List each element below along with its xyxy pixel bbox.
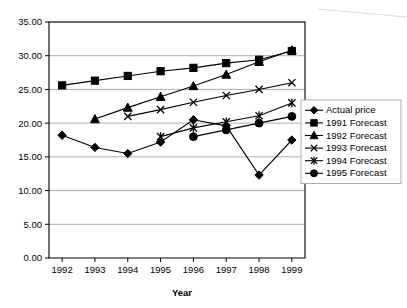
marker-square: [157, 68, 164, 75]
legend-label: 1992 Forecast: [326, 130, 387, 141]
y-axis-ticks: [45, 22, 49, 258]
marker-square: [223, 60, 230, 67]
marker-diamond: [124, 149, 132, 157]
marker-square: [124, 72, 131, 79]
scan-artifact: [318, 9, 407, 17]
x-tick-label: 1998: [248, 264, 269, 275]
data-series-group: [58, 46, 296, 180]
marker-asterisk: [288, 99, 295, 108]
y-tick-label: 10.00: [18, 185, 42, 196]
marker-square: [311, 120, 317, 126]
legend-label: 1991 Forecast: [326, 117, 387, 128]
marker-diamond: [189, 116, 197, 124]
x-tick-label: 1996: [183, 264, 204, 275]
x-tick-label: 1993: [84, 264, 105, 275]
x-axis-tick-labels: 19921993199419951996199719981999: [52, 264, 303, 275]
chart-figure: 0.005.0010.0015.0020.0025.0030.0035.00 1…: [0, 0, 407, 308]
y-tick-label: 15.00: [18, 151, 42, 162]
marker-triangle: [222, 70, 231, 78]
marker-circle: [255, 119, 263, 127]
marker-square: [190, 64, 197, 71]
marker-circle: [288, 113, 296, 121]
series-1995-forecast: [190, 113, 296, 141]
y-tick-label: 5.00: [24, 219, 43, 230]
y-axis-tick-labels: 0.005.0010.0015.0020.0025.0030.0035.00: [18, 16, 42, 263]
legend-label: 1993 Forecast: [326, 142, 387, 153]
series-1991-forecast: [59, 47, 296, 89]
x-tick-label: 1997: [216, 264, 237, 275]
marker-circle: [222, 126, 230, 134]
y-tick-label: 25.00: [18, 84, 42, 95]
series-1992-forecast: [91, 46, 297, 123]
marker-asterisk: [157, 132, 164, 141]
gridlines: [49, 22, 305, 224]
x-axis-title: Year: [172, 287, 192, 298]
marker-diamond: [58, 131, 66, 139]
series-line: [193, 116, 291, 136]
marker-diamond: [91, 143, 99, 151]
y-tick-label: 0.00: [24, 252, 43, 263]
legend-label: 1994 Forecast: [326, 155, 387, 166]
y-tick-label: 35.00: [18, 16, 42, 27]
x-tick-label: 1999: [281, 264, 302, 275]
x-axis-ticks: [62, 258, 292, 262]
marker-circle: [190, 133, 198, 141]
x-tick-label: 1994: [117, 264, 138, 275]
x-tick-label: 1995: [150, 264, 171, 275]
legend-label: Actual price: [326, 104, 376, 115]
chart-legend: Actual price1991 Forecast1992 Forecast19…: [301, 100, 401, 184]
line-chart: 0.005.0010.0015.0020.0025.0030.0035.00 1…: [0, 0, 407, 308]
marker-square: [59, 82, 66, 89]
y-tick-label: 20.00: [18, 118, 42, 129]
x-tick-label: 1992: [52, 264, 73, 275]
y-tick-label: 30.00: [18, 50, 42, 61]
legend-label: 1995 Forecast: [326, 167, 387, 178]
marker-square: [91, 77, 98, 84]
marker-circle: [311, 170, 318, 177]
series-1993-forecast: [124, 79, 295, 120]
